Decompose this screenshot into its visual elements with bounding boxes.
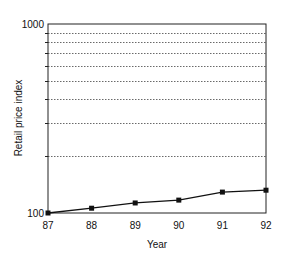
y-tick-label: 100 xyxy=(27,208,44,219)
y-axis-ticks: 1001000 xyxy=(22,19,45,219)
x-axis-label: Year xyxy=(147,239,168,250)
gridlines xyxy=(45,34,266,157)
y-tick-label: 1000 xyxy=(22,19,45,30)
x-tick-label: 91 xyxy=(217,220,229,231)
data-point-marker xyxy=(220,190,225,195)
x-tick-label: 89 xyxy=(130,220,142,231)
data-point-marker xyxy=(89,206,94,211)
data-point-marker xyxy=(46,211,51,216)
x-tick-label: 87 xyxy=(42,220,54,231)
data-series xyxy=(46,188,269,216)
x-tick-label: 88 xyxy=(86,220,98,231)
data-point-marker xyxy=(133,200,138,205)
x-tick-label: 92 xyxy=(260,220,272,231)
data-point-marker xyxy=(176,198,181,203)
x-tick-label: 90 xyxy=(173,220,185,231)
plot-area-frame xyxy=(48,24,266,213)
line-chart: 1001000 878889909192 Year Retail price i… xyxy=(0,0,286,262)
data-point-marker xyxy=(264,188,269,193)
y-axis-label: Retail price index xyxy=(13,80,24,157)
x-axis-ticks: 878889909192 xyxy=(42,220,272,231)
series-line xyxy=(48,190,266,213)
